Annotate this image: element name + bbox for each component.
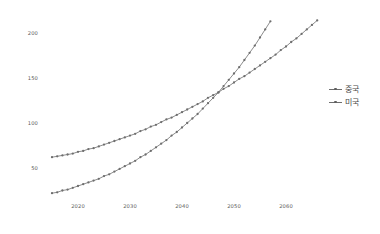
data-point-marker [155, 124, 157, 126]
data-point-marker [144, 153, 146, 155]
y-tick-label: 100 [0, 120, 38, 126]
data-point-marker [228, 85, 230, 87]
data-point-marker [61, 189, 63, 191]
x-tick-label: 2050 [227, 203, 241, 209]
data-point-marker [222, 88, 224, 90]
legend-item-1[interactable]: 중국 [329, 83, 377, 96]
data-point-marker [191, 117, 193, 119]
x-tick-label: 2060 [279, 203, 293, 209]
data-point-marker [311, 24, 313, 26]
legend-marker-icon [329, 86, 342, 93]
data-point-marker [285, 45, 287, 47]
data-point-marker [233, 72, 235, 74]
data-point-marker [196, 113, 198, 115]
data-point-marker [280, 49, 282, 51]
data-point-marker [264, 61, 266, 63]
data-point-marker [238, 78, 240, 80]
series-path [52, 21, 270, 193]
series-path [52, 20, 317, 157]
data-point-marker [165, 118, 167, 120]
data-point-marker [61, 154, 63, 156]
data-point-marker [72, 187, 74, 189]
data-point-marker [150, 125, 152, 127]
data-point-marker [77, 151, 79, 153]
x-tick-label: 2040 [175, 203, 189, 209]
data-point-marker [134, 133, 136, 135]
data-point-marker [66, 188, 68, 190]
data-point-marker [170, 116, 172, 118]
data-point-marker [124, 136, 126, 138]
data-point-marker [82, 150, 84, 152]
data-point-marker [212, 97, 214, 99]
line-chart-plot [0, 0, 380, 234]
data-point-marker [118, 168, 120, 170]
data-point-marker [212, 94, 214, 96]
data-point-marker [144, 128, 146, 130]
data-point-marker [113, 170, 115, 172]
data-point-marker [181, 126, 183, 128]
data-point-marker [113, 140, 115, 142]
data-point-marker [233, 81, 235, 83]
data-point-marker [217, 91, 219, 93]
data-point-marker [170, 134, 172, 136]
data-point-marker [160, 143, 162, 145]
data-point-marker [82, 183, 84, 185]
data-point-marker [202, 107, 204, 109]
legend-item-2[interactable]: 미국 [329, 96, 377, 109]
data-point-marker [118, 138, 120, 140]
data-point-marker [191, 106, 193, 108]
data-point-marker [181, 111, 183, 113]
data-point-marker [202, 100, 204, 102]
y-tick-label: 50 [0, 165, 38, 171]
data-point-marker [56, 155, 58, 157]
data-point-marker [129, 162, 131, 164]
data-point-marker [98, 145, 100, 147]
data-point-marker [150, 150, 152, 152]
data-point-marker [87, 148, 89, 150]
data-point-marker [274, 53, 276, 55]
data-point-marker [238, 66, 240, 68]
data-point-marker [269, 20, 271, 22]
data-point-marker [51, 156, 53, 158]
data-point-marker [108, 173, 110, 175]
y-tick-label: 150 [0, 75, 38, 81]
data-point-marker [248, 52, 250, 54]
legend-item-label: 중국 [345, 86, 359, 94]
data-point-marker [290, 41, 292, 43]
data-point-marker [243, 75, 245, 77]
data-point-marker [51, 192, 53, 194]
data-point-marker [196, 103, 198, 105]
data-point-marker [269, 57, 271, 59]
data-point-marker [87, 181, 89, 183]
data-point-marker [66, 153, 68, 155]
data-point-marker [186, 108, 188, 110]
y-tick-label: 200 [0, 30, 38, 36]
data-point-marker [103, 175, 105, 177]
legend-marker-icon [329, 99, 342, 106]
data-point-marker [300, 33, 302, 35]
chart-legend: 중국미국 [329, 83, 377, 109]
data-point-marker [254, 68, 256, 70]
data-point-marker [139, 156, 141, 158]
data-point-marker [77, 185, 79, 187]
data-point-marker [124, 165, 126, 167]
legend-item-label: 미국 [345, 99, 359, 107]
data-point-marker [259, 64, 261, 66]
data-point-marker [72, 152, 74, 154]
data-point-marker [165, 139, 167, 141]
data-point-marker [92, 147, 94, 149]
data-point-marker [207, 97, 209, 99]
series-line-2 [51, 19, 319, 158]
data-point-marker [264, 28, 266, 30]
data-point-marker [228, 79, 230, 81]
data-point-marker [129, 134, 131, 136]
data-point-marker [186, 122, 188, 124]
data-point-marker [295, 37, 297, 39]
data-point-marker [139, 130, 141, 132]
data-point-marker [103, 143, 105, 145]
data-point-marker [259, 36, 261, 38]
data-point-marker [160, 121, 162, 123]
data-point-marker [222, 85, 224, 87]
chart-figure: 50100150200 20202030204020502060 중국미국 [0, 0, 380, 234]
data-point-marker [98, 178, 100, 180]
